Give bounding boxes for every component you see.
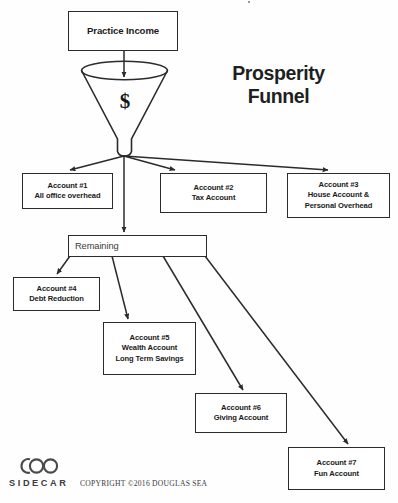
node-account-6-line-1: Account #6: [221, 403, 261, 413]
sidecar-logo-icon: [11, 455, 71, 477]
edge-remaining-to-account5: [112, 256, 128, 319]
node-account-5-line-2: Wealth Account: [122, 343, 178, 353]
node-practice-income-label: Practice Income: [87, 24, 159, 37]
node-account-4[interactable]: Account #4 Debt Reduction: [13, 277, 100, 311]
edge-funnel-to-account2: [124, 156, 175, 170]
node-account-3[interactable]: Account #3 House Account & Personal Over…: [287, 173, 390, 218]
node-account-2-line-2: Tax Account: [192, 193, 236, 203]
node-account-5-line-3: Long Term Savings: [115, 354, 183, 364]
node-account-7-line-2: Fun Account: [314, 469, 359, 479]
node-account-3-line-3: Personal Overhead: [305, 201, 373, 211]
node-remaining-label: Remaining: [75, 240, 119, 253]
node-account-1-line-1: Account #1: [48, 181, 88, 191]
edge-funnel-to-account1: [70, 156, 124, 170]
node-account-3-line-1: Account #3: [319, 180, 359, 190]
node-account-7[interactable]: Account #7 Fun Account: [288, 447, 385, 490]
node-account-4-line-2: Debt Reduction: [29, 294, 84, 304]
scan-artifact-speck: [248, 1, 250, 3]
node-account-3-line-2: House Account &: [308, 190, 370, 200]
node-account-4-line-1: Account #4: [37, 284, 77, 294]
diagram-title-line-1: Prosperity: [206, 62, 351, 85]
node-account-2-line-1: Account #2: [194, 183, 234, 193]
diagram-title-line-2: Funnel: [206, 85, 351, 108]
node-account-7-line-1: Account #7: [317, 458, 357, 468]
node-account-5[interactable]: Account #5 Wealth Account Long Term Savi…: [103, 322, 196, 375]
node-account-1-line-2: All office overhead: [34, 191, 100, 201]
prosperity-funnel-diagram: Prosperity Funnel $ Practice Income Acco…: [0, 0, 398, 503]
node-remaining[interactable]: Remaining: [68, 235, 207, 257]
node-practice-income[interactable]: Practice Income: [68, 11, 178, 51]
node-account-2[interactable]: Account #2 Tax Account: [160, 173, 267, 213]
node-account-6[interactable]: Account #6 Giving Account: [195, 393, 287, 433]
edge-remaining-to-account4: [57, 256, 70, 274]
node-account-1[interactable]: Account #1 All office overhead: [22, 173, 113, 209]
node-account-5-line-1: Account #5: [130, 333, 170, 343]
footer-copyright: COPYRIGHT ©2016 DOUGLAS SEA: [80, 479, 207, 488]
footer-brand-name: SIDECAR: [9, 478, 69, 488]
edge-funnel-to-account3: [124, 156, 328, 170]
diagram-title: Prosperity Funnel: [206, 62, 351, 108]
dollar-sign-icon: $: [113, 89, 137, 114]
node-account-6-line-2: Giving Account: [214, 413, 268, 423]
